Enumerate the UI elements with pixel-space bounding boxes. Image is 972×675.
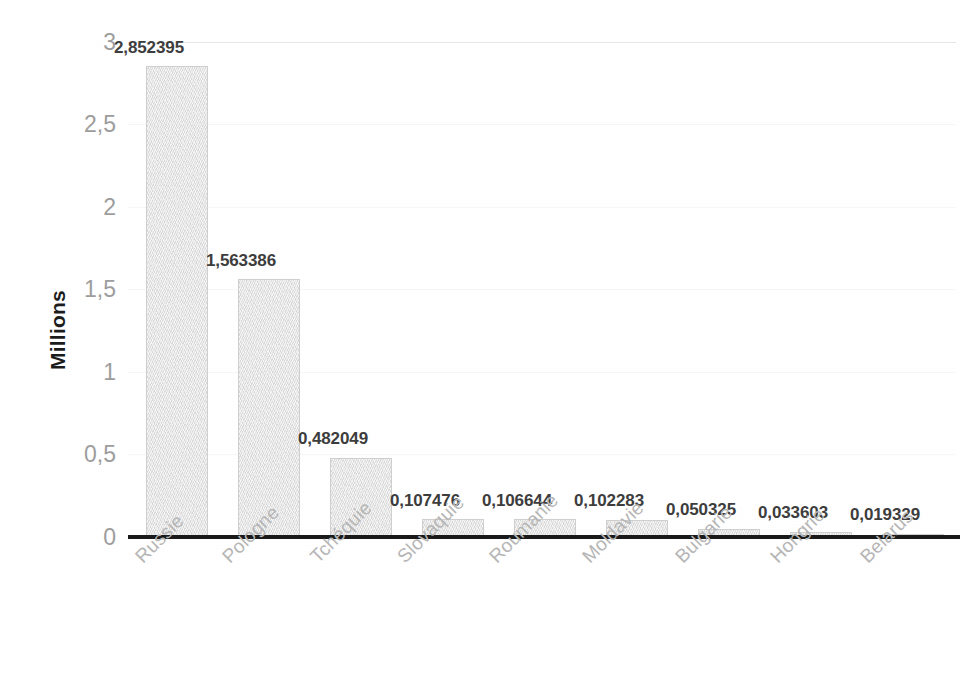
bar-pologne	[238, 279, 300, 537]
bar-chart: 3 2,5 2 1,5 1 0,5 0 Millions 2,852395 1,…	[0, 0, 972, 675]
y-axis-title: Millions	[46, 270, 70, 390]
plot-area	[128, 42, 960, 537]
value-label-russie: 2,852395	[97, 38, 201, 58]
value-label-pologne: 1,563386	[189, 251, 293, 271]
y-axis-tick-0-5: 0,5	[44, 441, 116, 468]
value-label-bulgarie: 0,050325	[649, 500, 753, 520]
y-axis-tick-0: 0	[44, 524, 116, 551]
y-axis-tick-2-5: 2,5	[44, 111, 116, 138]
value-label-tchequie: 0,482049	[281, 429, 385, 449]
value-label-moldavie: 0,102283	[557, 491, 661, 511]
value-label-hongrie: 0,033603	[741, 503, 845, 523]
bar-russie	[146, 66, 208, 537]
y-axis-tick-2: 2	[44, 194, 116, 221]
